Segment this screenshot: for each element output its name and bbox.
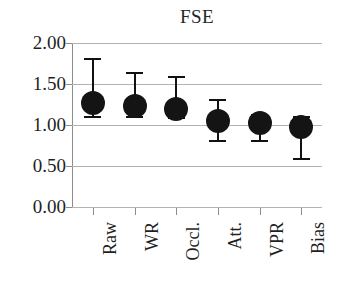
y-tick-label: 0.00 xyxy=(4,196,66,218)
y-tick-mark xyxy=(66,125,72,126)
error-bar-cap-upper xyxy=(126,72,143,74)
gridline xyxy=(72,207,322,208)
data-point-marker xyxy=(81,91,105,115)
gridline xyxy=(72,43,322,44)
x-category-label-att: Att. xyxy=(226,222,244,286)
x-category-label-vpr: VPR xyxy=(268,222,286,286)
y-tick-label: 0.50 xyxy=(4,155,66,177)
y-tick-mark xyxy=(66,84,72,85)
plot-area xyxy=(72,43,322,207)
error-bar-cap-lower xyxy=(251,140,268,142)
data-point-marker xyxy=(248,111,272,135)
y-tick-mark xyxy=(66,207,72,208)
data-point-marker xyxy=(289,115,313,139)
x-tick-mark xyxy=(135,208,136,215)
chart-title: FSE xyxy=(72,6,322,28)
data-point-marker xyxy=(123,94,147,118)
error-bar-cap-lower xyxy=(209,140,226,142)
x-tick-mark xyxy=(260,208,261,215)
x-tick-mark xyxy=(93,208,94,215)
x-tick-mark xyxy=(301,208,302,215)
x-tick-mark xyxy=(218,208,219,215)
error-bar-cap-upper xyxy=(209,99,226,101)
data-point-marker xyxy=(206,109,230,133)
x-category-label-wr: WR xyxy=(143,222,161,286)
y-tick-mark xyxy=(66,166,72,167)
data-point-marker xyxy=(164,97,188,121)
x-category-label-raw: Raw xyxy=(101,222,119,286)
x-tick-mark xyxy=(176,208,177,215)
error-bar-cap-lower xyxy=(84,116,101,118)
gridline xyxy=(72,84,322,85)
chart-figure: FSE 0.000.501.001.502.00 RawWROccl.Att.V… xyxy=(0,0,340,290)
error-bar-cap-upper xyxy=(84,58,101,60)
gridline xyxy=(72,125,322,126)
x-category-label-bias: Bias xyxy=(309,222,327,286)
gridline xyxy=(72,166,322,167)
y-tick-label: 1.00 xyxy=(4,114,66,136)
error-bar-cap-lower xyxy=(293,158,310,160)
y-tick-label: 2.00 xyxy=(4,32,66,54)
y-tick-mark xyxy=(66,43,72,44)
error-bar-cap-upper xyxy=(168,76,185,78)
y-tick-label: 1.50 xyxy=(4,73,66,95)
x-category-label-occl: Occl. xyxy=(184,222,202,286)
